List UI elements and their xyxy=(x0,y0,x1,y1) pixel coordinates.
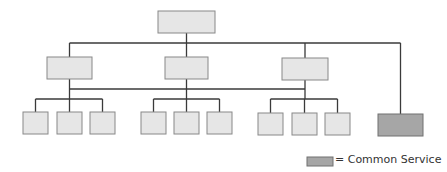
level2-node-2 xyxy=(282,58,328,80)
common-service-node xyxy=(378,114,423,136)
level2-node-0 xyxy=(47,57,92,79)
nodes xyxy=(23,11,423,136)
leaf-node-5 xyxy=(207,112,232,134)
hierarchy-diagram xyxy=(0,0,447,172)
leaf-node-3 xyxy=(141,112,166,134)
root-node xyxy=(158,11,215,33)
legend-label: = Common Service xyxy=(335,153,441,166)
leaf-node-2 xyxy=(90,112,115,134)
level2-node-1 xyxy=(165,57,208,79)
leaf-node-1 xyxy=(57,112,82,134)
leaf-node-7 xyxy=(292,113,317,135)
leaf-node-0 xyxy=(23,112,48,134)
legend-swatch xyxy=(307,157,333,166)
leaf-node-6 xyxy=(258,113,283,135)
leaf-node-8 xyxy=(325,113,350,135)
leaf-node-4 xyxy=(174,112,199,134)
